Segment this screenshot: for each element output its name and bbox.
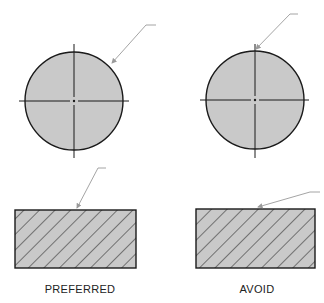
preferred-center-mark (73, 100, 75, 102)
preferred-circle-leader (112, 25, 156, 63)
avoid-rectangle-leader (258, 192, 320, 207)
avoid-caption: AVOID (240, 283, 275, 295)
preferred-section-view (15, 168, 136, 268)
drawing-canvas (0, 0, 324, 303)
avoid-section-view (196, 192, 320, 268)
preferred-circle-view (19, 25, 156, 158)
preferred-caption: PREFERRED (45, 283, 116, 295)
preferred-rectangle-leader (77, 168, 106, 208)
avoid-circle-view (200, 14, 309, 158)
preferred-hatched-rectangle (15, 210, 136, 268)
avoid-center-mark (254, 99, 256, 101)
avoid-circle-leader (256, 14, 298, 49)
avoid-hatched-rectangle (196, 209, 315, 268)
